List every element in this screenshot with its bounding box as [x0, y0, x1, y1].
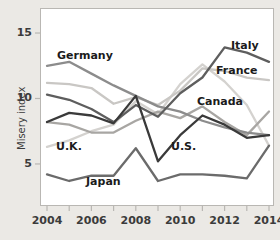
series-label-uk: U.K.	[56, 140, 82, 153]
x-tick-label: 2012	[207, 214, 243, 227]
x-tick-label: 2006	[73, 214, 109, 227]
x-tick-label: 2014	[251, 214, 280, 227]
series-label-japan: Japan	[86, 175, 121, 188]
y-tick-label: 5	[10, 157, 32, 170]
series-label-germany: Germany	[57, 49, 113, 62]
series-label-us: U.S.	[171, 140, 196, 153]
chart-canvas	[0, 0, 280, 240]
x-tick-label: 2004	[29, 214, 65, 227]
chart-figure: 15105 200420062008201020122014 GermanyIt…	[0, 0, 280, 240]
y-tick-label: 15	[10, 26, 32, 39]
x-tick-label: 2008	[118, 214, 154, 227]
y-axis-title: Misery index	[16, 87, 27, 150]
series-label-france: France	[216, 64, 257, 77]
series-label-canada: Canada	[197, 95, 243, 108]
series-label-italy: Italy	[231, 39, 259, 52]
x-tick-label: 2010	[162, 214, 198, 227]
